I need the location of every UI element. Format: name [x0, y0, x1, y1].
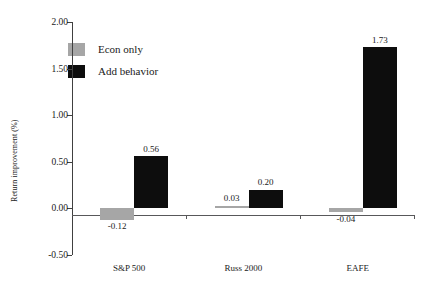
- bar: [100, 208, 134, 219]
- bar: [329, 208, 363, 212]
- bar: [215, 206, 249, 209]
- y-axis-tick-label: -0.50: [48, 250, 68, 260]
- bar: [134, 156, 168, 208]
- y-axis-title: Return improvement (%): [10, 82, 19, 202]
- bar-value-label: -0.04: [314, 214, 378, 224]
- bar: [363, 47, 397, 208]
- bar-chart: Return improvement (%) Econ only Add beh…: [0, 0, 442, 298]
- y-axis-tick-label: 1.50: [51, 64, 68, 74]
- bar-value-label: 1.73: [348, 35, 412, 45]
- x-axis-tick-3: [414, 215, 415, 219]
- bar-value-label: 0.56: [119, 144, 183, 154]
- x-axis-category-label: S&P 500: [72, 263, 186, 273]
- x-axis-tick-2: [300, 215, 301, 219]
- plot-area: 2.001.501.000.500.00-0.50 -0.120.560.030…: [72, 22, 415, 255]
- y-axis-tick-label: 0.50: [51, 157, 68, 167]
- y-axis-tick-label: 1.00: [51, 110, 68, 120]
- y-axis-tick-label: 2.00: [51, 17, 68, 27]
- bar-value-label: 0.20: [234, 177, 298, 187]
- x-axis-category-label: EAFE: [301, 263, 415, 273]
- x-axis-tick-1: [186, 215, 187, 219]
- bar-value-label: -0.12: [85, 221, 149, 231]
- bar: [249, 190, 283, 209]
- y-axis-tick-label: 0.00: [51, 203, 68, 213]
- x-axis-category-label: Russ 2000: [186, 263, 300, 273]
- y-axis-line: [72, 22, 73, 255]
